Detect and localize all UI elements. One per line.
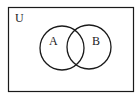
set-a-circle bbox=[40, 26, 84, 70]
set-b-label: B bbox=[92, 34, 100, 48]
universe-rectangle bbox=[9, 8, 134, 92]
venn-diagram: U A B bbox=[0, 0, 137, 95]
universe-label: U bbox=[15, 11, 24, 25]
set-a-label: A bbox=[49, 34, 58, 48]
set-b-circle bbox=[67, 25, 111, 69]
